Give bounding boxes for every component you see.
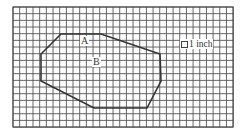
scale-label: 1 inch bbox=[189, 39, 212, 49]
scale-legend: 1 inch bbox=[180, 39, 213, 49]
label-b: B bbox=[92, 57, 101, 67]
label-a: A bbox=[80, 36, 89, 46]
square-unit-icon bbox=[181, 41, 188, 48]
grid bbox=[0, 0, 247, 136]
polygon-shape bbox=[41, 34, 161, 108]
